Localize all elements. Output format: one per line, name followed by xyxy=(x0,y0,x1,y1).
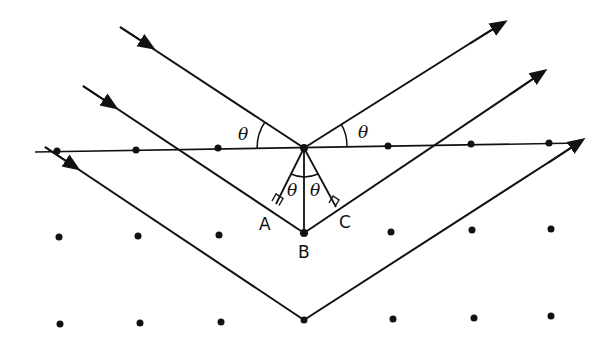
path-difference-construction xyxy=(272,148,339,233)
point-C-label: C xyxy=(339,212,351,232)
reflected-arrow-icon xyxy=(510,74,540,95)
incident-arrow-icon xyxy=(120,27,148,45)
incident-arrow-icon xyxy=(83,86,111,105)
incident-angle-arc xyxy=(257,122,265,149)
ray-3 xyxy=(45,143,578,320)
bragg-diagram: θ θ θ θ A B C xyxy=(0,0,608,350)
ray-1 xyxy=(120,25,500,148)
reflected-angle-arc xyxy=(341,124,347,147)
ray-2 xyxy=(83,74,540,233)
theta-reflected-label: θ xyxy=(358,122,368,142)
point-B-label: B xyxy=(298,242,310,262)
point-A-label: A xyxy=(259,214,271,234)
reflected-arrow-icon xyxy=(548,143,578,163)
reflected-arrow-icon xyxy=(470,25,500,44)
diagram-canvas: θ θ θ θ A B C xyxy=(0,0,608,350)
theta-left-inner-label: θ xyxy=(287,180,297,200)
theta-incident-label: θ xyxy=(238,124,248,144)
theta-right-inner-label: θ xyxy=(310,180,320,200)
